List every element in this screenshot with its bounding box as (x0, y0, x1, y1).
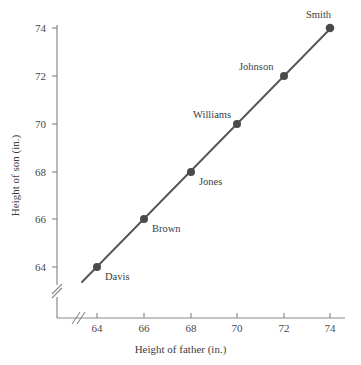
data-point-johnson (280, 72, 288, 80)
ytick-label-64: 64 (24, 262, 46, 273)
trend-line (82, 28, 331, 282)
xtick-label-68: 68 (186, 323, 197, 334)
xtick-label-70: 70 (232, 323, 243, 334)
ytick-label-74: 74 (24, 23, 46, 34)
x-axis-title: Height of father (in.) (0, 344, 361, 355)
ytick-label-72: 72 (24, 71, 46, 82)
ytick-label-66: 66 (24, 214, 46, 225)
data-point-williams (233, 120, 241, 128)
y-axis-title: Height of son (in.) (10, 111, 21, 241)
data-point-jones (187, 168, 195, 176)
xtick-label-66: 66 (139, 323, 150, 334)
point-label-johnson: Johnson (239, 62, 273, 73)
plot-canvas (0, 0, 361, 365)
point-label-williams: Williams (193, 110, 231, 121)
xtick-label-64: 64 (92, 323, 103, 334)
data-point-davis (93, 263, 101, 271)
data-point-smith (326, 24, 335, 33)
data-point-brown (140, 215, 148, 223)
ytick-label-68: 68 (24, 167, 46, 178)
point-label-jones: Jones (199, 177, 222, 188)
point-label-davis: Davis (105, 272, 130, 283)
xtick-label-72: 72 (279, 323, 290, 334)
xtick-label-74: 74 (325, 323, 336, 334)
point-label-brown: Brown (152, 224, 181, 235)
ytick-label-70: 70 (24, 119, 46, 130)
x-tick-marks (97, 313, 330, 318)
point-label-smith: Smith (306, 10, 331, 21)
y-tick-marks (52, 28, 57, 267)
scatter-plot-figure: 74 72 70 68 66 64 64 66 68 70 72 74 Davi… (0, 0, 361, 365)
